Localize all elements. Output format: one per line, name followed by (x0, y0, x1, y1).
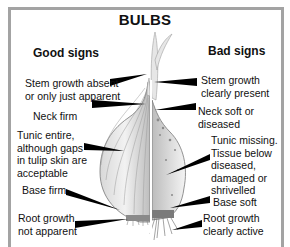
good-label-root: Root growth not apparent (18, 212, 77, 237)
bad-label-root: Root growth clearly active (203, 212, 264, 237)
good-label-base: Base firm (22, 184, 66, 197)
good-label-tunic: Tunic entire, although gaps in tulip ski… (17, 129, 87, 179)
good-signs-heading: Good signs (33, 46, 99, 60)
bad-label-base: Base soft (213, 196, 257, 209)
good-label-neck: Neck firm (33, 110, 77, 123)
bad-label-stem: Stem growth clearly present (201, 74, 269, 99)
good-label-stem: Stem growth absent or only just apparent (25, 77, 120, 102)
bad-label-tunic: Tunic missing. Tissue below diseased, da… (211, 134, 278, 197)
bad-label-neck: Neck soft or diseased (198, 105, 254, 130)
bad-signs-heading: Bad signs (208, 44, 265, 58)
diagram-title: BULBS (0, 11, 290, 28)
